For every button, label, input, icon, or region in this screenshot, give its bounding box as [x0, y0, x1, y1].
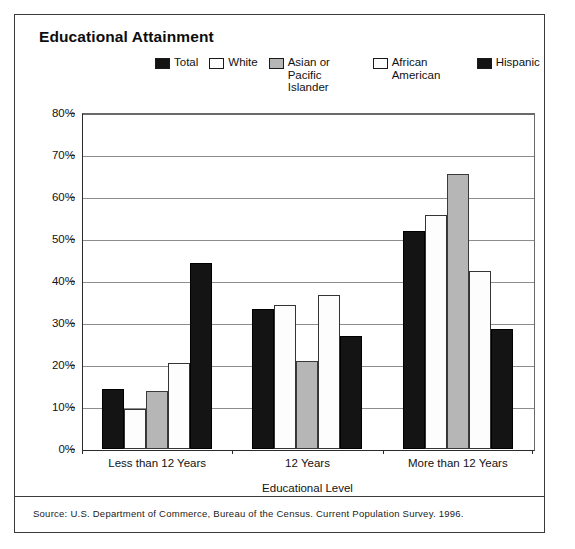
bar[interactable] — [491, 329, 513, 449]
gray-square-icon — [269, 58, 284, 69]
x-axis-tick-mark — [383, 450, 384, 454]
bar[interactable] — [146, 391, 168, 449]
bar[interactable] — [274, 305, 296, 449]
legend-item[interactable]: African American — [373, 56, 466, 81]
legend-item-label: African American — [392, 56, 466, 81]
black-square-icon — [155, 58, 170, 69]
x-axis-tick-mark — [532, 450, 533, 454]
y-axis-tick-mark — [70, 197, 75, 198]
legend-item[interactable]: Total — [155, 56, 198, 69]
source-note: Source: U.S. Department of Commerce, Bur… — [33, 508, 464, 519]
bar[interactable] — [469, 271, 491, 449]
y-axis-tick-mark — [70, 113, 75, 114]
legend-item-label: Hispanic — [496, 56, 540, 69]
white-square-icon — [373, 58, 388, 69]
y-axis-tick-label: 70% — [29, 149, 75, 161]
chart-legend: TotalWhiteAsian or Pacific IslanderAfric… — [155, 56, 540, 94]
bar[interactable] — [318, 295, 340, 449]
legend-item[interactable]: Asian or Pacific Islander — [269, 56, 362, 94]
bar[interactable] — [124, 409, 146, 449]
bar[interactable] — [403, 231, 425, 449]
x-axis-tick-mark — [82, 450, 83, 454]
y-axis-tick-mark — [70, 323, 75, 324]
y-axis-tick-label: 40% — [29, 275, 75, 287]
y-axis-tick-label: 10% — [29, 401, 75, 413]
bar[interactable] — [340, 336, 362, 449]
bar[interactable] — [296, 361, 318, 449]
bar[interactable] — [190, 263, 212, 449]
x-axis-ticks — [82, 450, 533, 455]
bar[interactable] — [102, 389, 124, 449]
bar[interactable] — [252, 309, 274, 449]
y-axis-tick-label: 20% — [29, 359, 75, 371]
legend-item-label: Asian or Pacific Islander — [288, 56, 362, 94]
y-axis-tick-label: 0% — [29, 443, 75, 455]
legend-item[interactable]: White — [209, 56, 257, 69]
x-axis: Less than 12 Years12 YearsMore than 12 Y… — [82, 457, 533, 475]
legend-item[interactable]: Hispanic — [477, 56, 540, 69]
x-axis-tick-mark — [232, 450, 233, 454]
bar[interactable] — [168, 363, 190, 449]
y-axis-tick-mark — [70, 365, 75, 366]
y-axis: 0%10%20%30%40%50%60%70%80% — [25, 113, 75, 449]
black-square-icon — [477, 58, 492, 69]
gridline — [83, 156, 534, 157]
y-axis-tick-label: 50% — [29, 233, 75, 245]
y-axis-tick-mark — [70, 239, 75, 240]
chart-figure-frame: Educational Attainment TotalWhiteAsian o… — [14, 14, 545, 533]
y-axis-tick-label: 80% — [29, 107, 75, 119]
x-axis-title: Educational Level — [82, 482, 533, 494]
page-title: Educational Attainment — [39, 28, 214, 46]
y-axis-tick-label: 60% — [29, 191, 75, 203]
white-square-icon — [209, 58, 224, 69]
legend-item-label: White — [228, 56, 257, 69]
y-axis-tick-mark — [70, 281, 75, 282]
bar[interactable] — [447, 174, 469, 449]
x-axis-tick-label: More than 12 Years — [408, 457, 508, 469]
y-axis-tick-label: 30% — [29, 317, 75, 329]
bar[interactable] — [425, 215, 447, 449]
y-axis-tick-mark — [70, 407, 75, 408]
legend-item-label: Total — [174, 56, 198, 69]
gridline — [83, 114, 534, 115]
y-axis-tick-mark — [70, 155, 75, 156]
x-axis-tick-label: Less than 12 Years — [108, 457, 206, 469]
y-axis-tick-mark — [70, 449, 75, 450]
source-divider — [15, 496, 544, 497]
x-axis-tick-label: 12 Years — [285, 457, 330, 469]
